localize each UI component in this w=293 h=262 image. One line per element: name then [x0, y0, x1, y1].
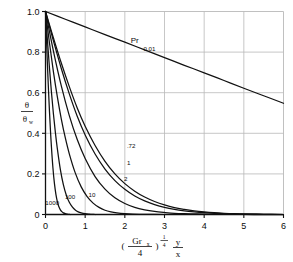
pr-symbol-annotation: Pr — [131, 36, 139, 45]
x-tick-label: 2 — [122, 221, 127, 231]
curve-label-pr-1000: 1000 — [45, 199, 59, 206]
curve-label-pr-10: 10 — [88, 191, 95, 198]
y-tick-label: 0.4 — [27, 129, 40, 139]
x-tick-label: 3 — [162, 221, 167, 231]
curve-label-pr-2: 2 — [124, 175, 128, 182]
x-tick-label: 0 — [43, 221, 48, 231]
y-axis-denominator-subscript: w — [29, 119, 33, 125]
x-axis-y-over-x-denominator: x — [176, 249, 181, 259]
x-axis-exponent-denominator: 4 — [163, 242, 166, 248]
y-axis-denominator: θ — [23, 114, 27, 124]
curve-label-pr-1: 1 — [127, 159, 131, 166]
x-axis-paren-open: ( — [122, 241, 125, 251]
x-tick-label: 1 — [83, 221, 88, 231]
curve-label-pr-0_72: .72 — [127, 142, 136, 149]
chart-figure: 0123456 00.20.40.60.81.0 .7212101001000 … — [0, 0, 293, 262]
x-tick-label: 6 — [281, 221, 286, 231]
x-tick-label: 5 — [241, 221, 246, 231]
x-tick-label: 4 — [202, 221, 207, 231]
y-tick-label: 0.8 — [27, 47, 40, 57]
y-tick-label: 1.0 — [27, 7, 40, 17]
x-axis-paren-close: ) — [156, 241, 159, 251]
x-axis-exponent-numerator: 1 — [163, 234, 166, 240]
y-tick-label: 0 — [34, 210, 39, 220]
curve-label-pr-100: 100 — [65, 193, 76, 200]
x-axis-gr-denominator: 4 — [138, 248, 143, 258]
y-tick-label: 0.2 — [27, 169, 40, 179]
temperature-profile-chart: 0123456 00.20.40.60.81.0 .7212101001000 … — [0, 0, 293, 262]
x-axis-gr-symbol: Gr — [132, 236, 142, 246]
x-axis-y-over-x-numerator: y — [176, 237, 181, 247]
y-tick-label: 0.6 — [27, 88, 40, 98]
y-axis-numerator: θ — [25, 100, 29, 110]
pr-value-annotation: 0.01 — [143, 45, 156, 52]
